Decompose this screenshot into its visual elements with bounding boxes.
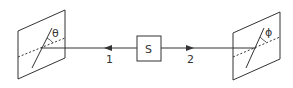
beam-2-arrow-icon: [186, 45, 194, 51]
beam-1-arrow-icon: [104, 45, 112, 51]
right-polarizer-plate: [233, 12, 280, 80]
left-polarizer: θ: [18, 10, 65, 79]
diagram-canvas: θ 1 S 2 ϕ: [0, 0, 293, 88]
right-polarizer: ϕ: [233, 12, 280, 80]
right-angle-label: ϕ: [265, 26, 272, 39]
beam-2-label: 2: [187, 53, 194, 66]
source-label: S: [145, 43, 152, 56]
beam-1-label: 1: [106, 53, 113, 66]
right-polarizer-reference-axis: [233, 37, 280, 57]
left-angle-label: θ: [52, 27, 59, 40]
left-polarizer-plate: [18, 10, 65, 79]
